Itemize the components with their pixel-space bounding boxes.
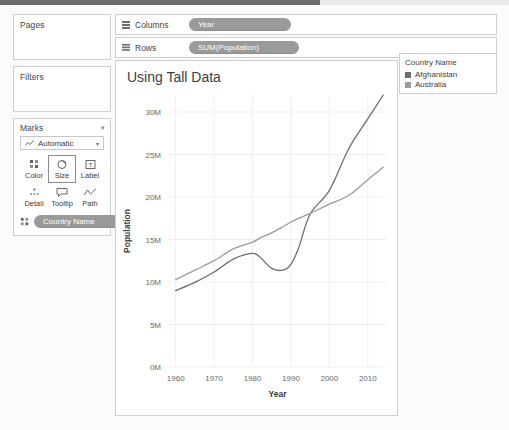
pages-card[interactable]: Pages	[13, 14, 111, 60]
svg-text:1980: 1980	[244, 374, 262, 383]
legend-swatch	[405, 72, 411, 78]
marks-button-detail-label: Detail	[24, 199, 43, 208]
svg-text:Population: Population	[122, 209, 132, 253]
marks-button-color[interactable]: Color	[20, 155, 48, 183]
label-text-icon: T	[85, 158, 96, 170]
marks-encoding-buttons: Color Size T	[20, 155, 104, 211]
mark-type-dropdown[interactable]: Automatic ▾	[20, 136, 104, 150]
legend-item-label: Afghanistan	[415, 70, 457, 79]
svg-text:20M: 20M	[145, 193, 161, 202]
marks-button-color-label: Color	[25, 171, 43, 180]
mark-type-value: Automatic	[38, 139, 74, 148]
legend-swatch	[405, 82, 411, 88]
worksheet-title: Using Tall Data	[127, 69, 221, 85]
rows-grid-icon	[122, 44, 130, 52]
marks-button-label[interactable]: T Label	[76, 155, 104, 183]
columns-shelf[interactable]: Columns Year	[115, 14, 497, 35]
legend-title: Country Name	[405, 58, 491, 67]
marks-card-header: Marks ▾	[14, 119, 110, 135]
svg-text:1990: 1990	[282, 374, 300, 383]
color-legend[interactable]: Country Name Afghanistan Australia	[399, 53, 497, 94]
marks-button-path-label: Path	[82, 199, 97, 208]
svg-text:15M: 15M	[145, 236, 161, 245]
svg-text:1960: 1960	[167, 374, 185, 383]
filters-card-title: Filters	[14, 67, 110, 85]
pages-card-title: Pages	[14, 15, 110, 33]
color-dots-icon	[29, 158, 40, 170]
svg-text:0M: 0M	[150, 363, 161, 372]
marks-encoding-row: Country Name	[20, 215, 104, 228]
marks-button-tooltip[interactable]: Tooltip	[48, 183, 76, 211]
svg-text:T: T	[88, 162, 92, 168]
window-title-strip	[0, 0, 320, 5]
columns-pill-year[interactable]: Year	[189, 18, 291, 31]
automatic-line-icon	[25, 140, 34, 147]
columns-shelf-label: Columns	[135, 20, 189, 30]
marks-card-title: Marks	[20, 123, 43, 133]
marks-button-path[interactable]: Path	[76, 183, 104, 211]
path-line-icon	[84, 186, 97, 198]
marks-button-detail[interactable]: Detail	[20, 183, 48, 211]
legend-item-label: Australia	[415, 80, 446, 89]
legend-item-afghanistan[interactable]: Afghanistan	[405, 70, 491, 79]
view-panel: Using Tall Data 0M5M10M15M20M25M30M19601…	[115, 60, 398, 416]
columns-grid-icon	[122, 21, 130, 29]
tableau-worksheet: Pages Filters Marks ▾ Automatic ▾	[0, 0, 509, 430]
detail-dots-icon	[29, 186, 40, 198]
tooltip-bubble-icon	[56, 186, 68, 198]
color-dots-icon	[20, 217, 30, 227]
marks-button-size-label: Size	[55, 171, 70, 180]
chevron-down-icon[interactable]: ▾	[96, 140, 99, 147]
rows-shelf-label: Rows	[135, 43, 189, 53]
marks-button-size[interactable]: Size	[48, 155, 76, 183]
marks-button-label-label: Label	[81, 171, 99, 180]
svg-text:Year: Year	[269, 389, 288, 399]
svg-text:25M: 25M	[145, 151, 161, 160]
svg-text:5M: 5M	[150, 321, 161, 330]
legend-item-australia[interactable]: Australia	[405, 80, 491, 89]
svg-text:30M: 30M	[145, 108, 161, 117]
marks-button-tooltip-label: Tooltip	[51, 199, 73, 208]
svg-text:10M: 10M	[145, 278, 161, 287]
marks-card[interactable]: Marks ▾ Automatic ▾	[13, 118, 111, 236]
marks-collapse-icon[interactable]: ▾	[101, 125, 105, 131]
svg-text:2000: 2000	[320, 374, 338, 383]
rows-pill-sum-population[interactable]: SUM(Population)	[189, 41, 299, 54]
svg-text:1970: 1970	[205, 374, 223, 383]
size-circle-icon	[56, 158, 69, 170]
filters-card[interactable]: Filters	[13, 66, 111, 112]
left-panel: Pages Filters Marks ▾ Automatic ▾	[13, 14, 111, 242]
svg-text:2010: 2010	[359, 374, 377, 383]
line-chart[interactable]: 0M5M10M15M20M25M30M196019701980199020002…	[116, 61, 397, 415]
